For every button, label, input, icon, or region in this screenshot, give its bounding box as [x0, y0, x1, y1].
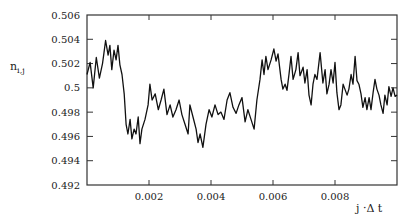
data-line [87, 41, 397, 148]
y-tick-label: 0.506 [51, 10, 80, 21]
x-tick-label: 0.006 [259, 191, 288, 202]
y-tick-label: 0.496 [51, 131, 80, 142]
y-axis-label: ni,j [10, 60, 25, 75]
x-tick-label: 0.008 [321, 191, 350, 202]
y-tick-label: 0.504 [51, 34, 80, 45]
x-axis-label: j ·Δ t [354, 202, 383, 215]
line-chart: 0.4920.4940.4960.4980.50.5020.5040.506 0… [0, 0, 406, 218]
y-axis-ticks: 0.4920.4940.4960.4980.50.5020.5040.506 [51, 10, 397, 191]
y-tick-label: 0.502 [51, 58, 80, 69]
y-tick-label: 0.494 [51, 155, 80, 166]
y-tick-label: 0.492 [51, 180, 80, 191]
x-tick-label: 0.004 [197, 191, 226, 202]
y-tick-label: 0.498 [51, 107, 80, 118]
y-tick-label: 0.5 [64, 82, 80, 93]
x-tick-label: 0.002 [135, 191, 164, 202]
